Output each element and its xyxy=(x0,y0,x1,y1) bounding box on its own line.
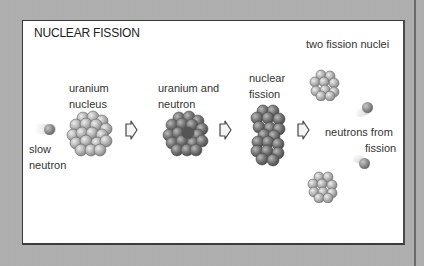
label-nuclear-fission-line1: nuclear xyxy=(249,70,285,86)
label-uranium-nucleus-line1: uranium xyxy=(69,80,109,96)
fission-neutron-lower xyxy=(359,158,370,169)
fission-nucleus-lower xyxy=(307,171,339,203)
label-two-fission-nuclei: two fission nuclei xyxy=(306,36,389,52)
diagram-title: NUCLEAR FISSION xyxy=(34,26,140,40)
arrow-icon xyxy=(124,120,140,140)
uranium-nucleus xyxy=(66,110,114,158)
slow-neutron-ball xyxy=(44,124,55,135)
outer-frame-line xyxy=(414,0,416,266)
arrow-icon xyxy=(218,120,234,140)
label-neutrons-from-fission-line1: neutrons from xyxy=(325,124,393,140)
label-slow-neutron-line2: neutron xyxy=(29,157,66,173)
label-slow-neutron-line1: slow xyxy=(29,141,51,157)
uranium-with-neutron-nucleus xyxy=(162,110,210,158)
arrow-icon xyxy=(296,120,312,140)
fission-nucleus-upper xyxy=(309,69,341,101)
fission-neutron-upper xyxy=(362,102,373,113)
label-uranium-and-neutron-line1: uranium and xyxy=(158,80,219,96)
fissioning-nucleus xyxy=(250,104,286,168)
label-nuclear-fission-line2: fission xyxy=(249,86,280,102)
label-neutrons-from-fission-line2: fission xyxy=(365,140,396,156)
